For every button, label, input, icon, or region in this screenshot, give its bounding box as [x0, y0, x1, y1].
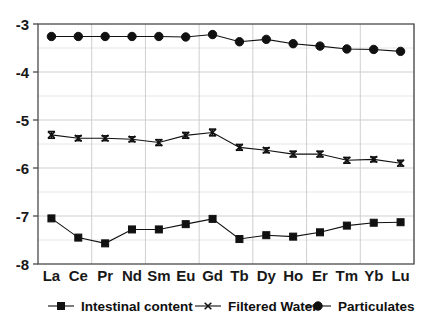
- marker-circle: [314, 302, 322, 310]
- y-tick-label: -7: [16, 208, 29, 225]
- marker-circle: [208, 30, 216, 38]
- marker-square: [129, 226, 136, 233]
- y-axis: -3-4-5-6-7-8: [16, 16, 38, 273]
- marker-circle: [262, 35, 270, 43]
- x-tick-label: Nd: [122, 267, 142, 284]
- marker-square: [236, 236, 243, 243]
- gridlines: [38, 24, 414, 264]
- marker-square: [102, 240, 109, 247]
- x-tick-label: Tm: [336, 267, 359, 284]
- x-tick-label: Tb: [230, 267, 248, 284]
- legend-label: Particulates: [338, 299, 415, 314]
- x-tick-label: Sm: [147, 267, 170, 284]
- x-tick-label: Ho: [283, 267, 303, 284]
- y-tick-label: -6: [16, 160, 29, 177]
- marker-circle: [316, 42, 324, 50]
- marker-circle: [74, 32, 82, 40]
- legend-item-filtered-water[interactable]: Filtered Water: [195, 299, 318, 314]
- marker-square: [155, 226, 162, 233]
- x-tick-label: Er: [312, 267, 328, 284]
- marker-circle: [370, 45, 378, 53]
- legend-label: Filtered Water: [228, 299, 318, 314]
- marker-circle: [128, 32, 136, 40]
- marker-circle: [182, 33, 190, 41]
- y-tick-label: -4: [16, 64, 30, 81]
- legend-item-particulates[interactable]: Particulates: [305, 299, 415, 314]
- x-tick-label: Gd: [202, 267, 223, 284]
- x-tick-label: Dy: [257, 267, 277, 284]
- y-tick-label: -5: [16, 112, 29, 129]
- marker-square: [317, 229, 324, 236]
- marker-circle: [396, 47, 404, 55]
- marker-square: [209, 215, 216, 222]
- x-tick-label: Yb: [364, 267, 383, 284]
- rare-earth-element-line-chart: -3-4-5-6-7-8LaCePrNdSmEuGdTbDyHoErTmYbLu…: [0, 0, 431, 326]
- marker-circle: [101, 32, 109, 40]
- series-particulates: [47, 30, 405, 55]
- chart-legend: Intestinal contentFiltered WaterParticul…: [48, 299, 415, 314]
- marker-circle: [155, 32, 163, 40]
- series-intestinal-content: [48, 215, 404, 247]
- marker-circle: [235, 38, 243, 46]
- x-tick-label: Ce: [69, 267, 88, 284]
- series-filtered-water: [48, 129, 404, 166]
- x-tick-label: Eu: [176, 267, 195, 284]
- marker-square: [290, 233, 297, 240]
- x-axis: LaCePrNdSmEuGdTbDyHoErTmYbLu: [43, 267, 410, 284]
- y-tick-label: -3: [16, 16, 29, 33]
- marker-square: [75, 234, 82, 241]
- chart-figure: -3-4-5-6-7-8LaCePrNdSmEuGdTbDyHoErTmYbLu…: [0, 0, 431, 326]
- marker-square: [263, 232, 270, 239]
- marker-square: [397, 219, 404, 226]
- marker-circle: [47, 32, 55, 40]
- marker-square: [182, 221, 189, 228]
- y-tick-label: -8: [16, 256, 29, 273]
- marker-square: [370, 219, 377, 226]
- marker-square: [343, 222, 350, 229]
- x-tick-label: Lu: [391, 267, 409, 284]
- legend-label: Intestinal content: [81, 299, 193, 314]
- marker-square: [58, 303, 65, 310]
- x-tick-label: La: [43, 267, 61, 284]
- marker-circle: [289, 39, 297, 47]
- x-tick-label: Pr: [97, 267, 113, 284]
- marker-square: [48, 215, 55, 222]
- legend-item-intestinal-content[interactable]: Intestinal content: [48, 299, 193, 314]
- marker-circle: [343, 45, 351, 53]
